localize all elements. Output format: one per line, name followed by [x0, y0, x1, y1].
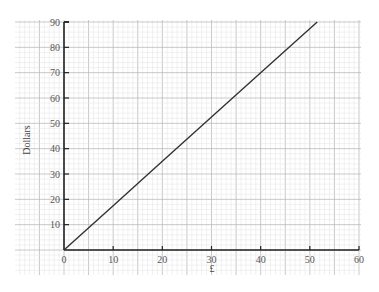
y-tick-label: 90 [50, 17, 60, 28]
y-tick-label: 10 [50, 219, 60, 230]
x-tick-label: 50 [305, 254, 315, 265]
x-axis-title: £ [210, 263, 215, 274]
grid [15, 20, 361, 275]
x-tick-label: 20 [157, 254, 167, 265]
x-tick-label: 40 [256, 254, 266, 265]
y-tick-label: 60 [50, 93, 60, 104]
conversion-line [64, 22, 317, 250]
tick-labels: 0102030405060102030405060708090 [50, 17, 364, 266]
x-tick-label: 10 [108, 254, 118, 265]
y-tick-label: 30 [50, 169, 60, 180]
y-tick-label: 40 [50, 143, 60, 154]
conversion-graph: 0102030405060102030405060708090 £ Dollar… [0, 0, 379, 292]
y-axis-title: Dollars [21, 125, 32, 155]
y-tick-label: 20 [50, 194, 60, 205]
x-tick-label: 0 [62, 254, 67, 265]
y-tick-label: 70 [50, 67, 60, 78]
x-tick-label: 60 [354, 254, 364, 265]
y-tick-label: 50 [50, 118, 60, 129]
y-tick-label: 80 [50, 42, 60, 53]
